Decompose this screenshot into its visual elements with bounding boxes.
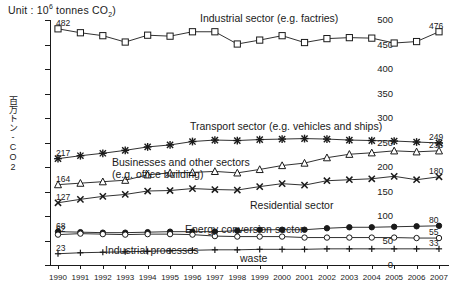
endpoint-left-processes: 62 (56, 224, 65, 234)
endpoint-right-business: 233 (429, 140, 443, 150)
annotation-residential-sector: Residential sector (250, 199, 333, 211)
endpoint-right-processes: 55 (429, 227, 438, 237)
endpoint-right-residential: 180 (429, 166, 443, 176)
endpoint-left-business: 164 (56, 174, 70, 184)
emissions-line-chart: Unit : 106 tonnes CO2) 百万トン-CO2 05010015… (0, 0, 457, 296)
unit-middle: tonnes CO (53, 4, 108, 16)
annotation-business-sector: Businesses and other sectors (e.g. offic… (112, 156, 262, 180)
endpoint-left-industrial: 482 (56, 18, 70, 28)
y-axis-title: 百万トン-CO2 (4, 96, 18, 172)
annotation-energy-conversion-sector: Energy conversion sector (185, 223, 303, 235)
annotation-waste: waste (240, 252, 267, 264)
annotation-industrial-processes: Industrial processes (105, 244, 198, 256)
endpoint-right-energy: 80 (429, 215, 438, 225)
unit-label: Unit : 106 tonnes CO2) (8, 3, 116, 18)
endpoint-left-residential: 127 (56, 192, 70, 202)
annotation-industrial-sector: Industrial sector (e.g. factries) (200, 12, 338, 24)
endpoint-left-transport: 217 (56, 148, 70, 158)
plot-area: 050100150200250300350400450500 199019911… (50, 20, 449, 266)
endpoint-right-waste: 33 (429, 238, 438, 248)
unit-prefix: Unit : 10 (8, 4, 49, 16)
unit-suffix: ) (112, 4, 116, 16)
annotation-transport-sector: Transport sector (e.g. vehicles and ship… (190, 120, 382, 132)
x-tick-label: 2007 (422, 273, 456, 282)
series-0 (55, 26, 442, 47)
endpoint-left-waste: 23 (56, 243, 65, 253)
endpoint-right-industrial: 476 (429, 21, 443, 31)
